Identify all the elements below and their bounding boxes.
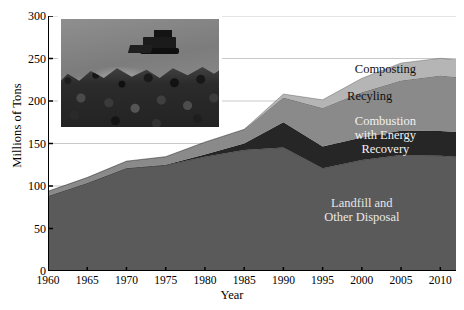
y-tick-label: 200: [12, 94, 46, 109]
x-tick-label: 1970: [106, 274, 146, 286]
stacked-area-chart: Millions of Tons 050100150200250300 Comp…: [0, 0, 464, 310]
x-tick-label: 1980: [185, 274, 225, 286]
y-tick-label: 300: [12, 9, 46, 24]
x-tick-label: 1995: [303, 274, 343, 286]
bulldozer-blade: [128, 45, 153, 53]
y-axis-tick-labels: 050100150200250300: [0, 0, 46, 310]
x-tick-label: 1960: [28, 274, 68, 286]
area-series-0: [48, 148, 456, 272]
y-tick-label: 150: [12, 137, 46, 152]
x-tick-label: 2000: [342, 274, 382, 286]
landfill-bulldozer-photo: [58, 16, 222, 130]
x-tick-label: 2005: [381, 274, 421, 286]
x-tick-label: 2010: [420, 274, 460, 286]
y-tick-label: 100: [12, 179, 46, 194]
bulldozer-icon: [129, 37, 183, 55]
x-axis-title: Year: [0, 288, 464, 303]
y-tick-label: 50: [12, 222, 46, 237]
photo-frame: [61, 19, 219, 127]
x-tick-label: 1975: [146, 274, 186, 286]
x-tick-label: 1990: [263, 274, 303, 286]
x-tick-label: 1985: [224, 274, 264, 286]
x-tick-label: 1965: [67, 274, 107, 286]
y-tick-label: 250: [12, 52, 46, 67]
